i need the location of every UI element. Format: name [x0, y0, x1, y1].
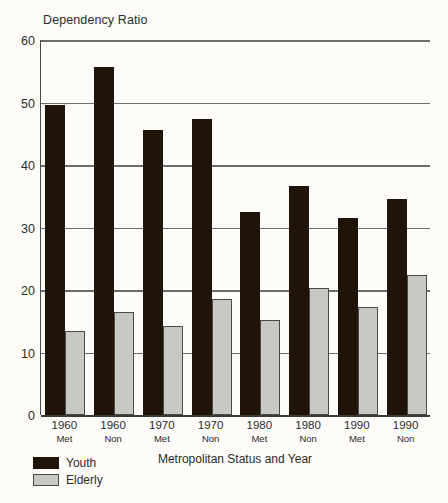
x-tick-year: 1980 — [295, 419, 321, 433]
legend-label-elderly: Elderly — [66, 473, 103, 487]
bar-elderly-1990-non — [407, 275, 427, 415]
legend-label-youth: Youth — [66, 456, 96, 470]
bar-youth-1990-non — [387, 199, 407, 415]
x-axis-tick-1960-met: 1960Met — [52, 419, 78, 444]
x-tick-year: 1970 — [198, 419, 224, 433]
bar-youth-1960-met — [45, 105, 65, 415]
x-axis-tick-1980-non: 1980Non — [295, 419, 321, 444]
x-tick-year: 1980 — [247, 419, 273, 433]
x-axis-tick-1990-met: 1990Met — [344, 419, 370, 444]
plot-area: 0102030405060 — [40, 40, 430, 415]
x-tick-status: Non — [393, 433, 419, 444]
x-axis-tick-1980-met: 1980Met — [247, 419, 273, 444]
x-tick-status: Met — [52, 433, 78, 444]
bars-layer — [41, 41, 430, 415]
chart-legend: YouthElderly — [33, 455, 103, 489]
bar-elderly-1980-non — [309, 288, 329, 416]
x-axis-tick-1960-non: 1960Non — [100, 419, 126, 444]
x-axis-tick-1970-met: 1970Met — [149, 419, 175, 444]
bar-elderly-1970-non — [212, 299, 232, 415]
x-tick-status: Non — [100, 433, 126, 444]
x-axis-tick-1970-non: 1970Non — [198, 419, 224, 444]
y-axis-tick-50: 50 — [21, 97, 35, 111]
bar-youth-1970-met — [143, 130, 163, 415]
y-axis-tick-10: 10 — [21, 347, 35, 361]
dependency-ratio-bar-chart: Dependency Ratio 0102030405060 1960Met19… — [0, 0, 448, 503]
bar-youth-1990-met — [338, 218, 358, 415]
bar-elderly-1960-met — [65, 331, 85, 415]
x-tick-year: 1960 — [52, 419, 78, 433]
y-axis-tick-40: 40 — [21, 159, 35, 173]
legend-swatch-youth — [33, 457, 59, 469]
bar-elderly-1970-met — [163, 326, 183, 415]
gridline-0 — [41, 415, 430, 417]
bar-elderly-1960-non — [114, 312, 134, 415]
legend-swatch-elderly — [33, 474, 59, 486]
legend-item-elderly: Elderly — [33, 472, 103, 487]
x-tick-year: 1990 — [344, 419, 370, 433]
y-axis-tick-30: 30 — [21, 222, 35, 236]
bar-elderly-1990-met — [358, 307, 378, 415]
x-tick-status: Non — [295, 433, 321, 444]
bar-youth-1980-met — [240, 212, 260, 415]
legend-item-youth: Youth — [33, 455, 103, 470]
x-tick-year: 1970 — [149, 419, 175, 433]
y-axis-tick-60: 60 — [21, 34, 35, 48]
y-axis-tick-0: 0 — [28, 409, 35, 423]
x-axis-tick-labels: 1960Met1960Non1970Met1970Non1980Met1980N… — [40, 419, 430, 453]
x-tick-status: Non — [198, 433, 224, 444]
bar-youth-1970-non — [192, 119, 212, 415]
x-axis-tick-1990-non: 1990Non — [393, 419, 419, 444]
x-tick-status: Met — [149, 433, 175, 444]
bar-youth-1980-non — [289, 186, 309, 415]
y-axis-tick-20: 20 — [21, 284, 35, 298]
x-tick-status: Met — [247, 433, 273, 444]
bar-elderly-1980-met — [260, 320, 280, 415]
bar-youth-1960-non — [94, 67, 114, 415]
x-tick-year: 1990 — [393, 419, 419, 433]
x-tick-year: 1960 — [100, 419, 126, 433]
x-tick-status: Met — [344, 433, 370, 444]
chart-title: Dependency Ratio — [43, 13, 147, 27]
